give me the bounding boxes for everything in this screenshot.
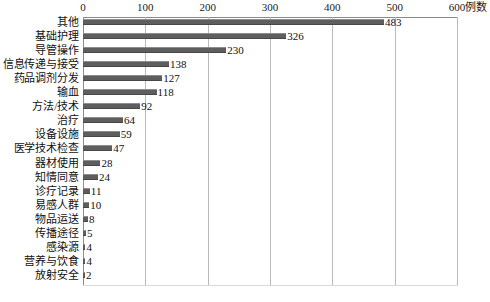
bar — [83, 160, 100, 166]
bar-value-label: 92 — [141, 99, 152, 113]
bar-value-label: 138 — [170, 57, 187, 71]
category-label: 器材使用 — [0, 156, 79, 170]
category-label: 医学技术检查 — [0, 141, 79, 155]
bar-value-label: 5 — [87, 226, 93, 240]
bar — [83, 188, 90, 194]
x-tick-label-500: 500 — [386, 1, 403, 14]
bar-value-label: 230 — [227, 43, 244, 57]
x-tick-label-600: 600 — [449, 1, 466, 14]
category-label: 导管操作 — [0, 43, 79, 57]
bar-row: 感染源4 — [0, 240, 490, 254]
category-label: 传播途径 — [0, 226, 79, 240]
bar — [83, 272, 85, 278]
category-label: 方法/技术 — [0, 99, 79, 113]
bar — [83, 216, 88, 222]
bar — [83, 174, 98, 180]
bar-value-label: 24 — [99, 170, 110, 184]
bar-row: 基础护理326 — [0, 29, 490, 43]
bar-value-label: 11 — [91, 184, 102, 198]
category-label: 物品运送 — [0, 212, 79, 226]
x-tick-label-100: 100 — [137, 1, 154, 14]
bar — [83, 47, 226, 53]
category-label: 知情同意 — [0, 170, 79, 184]
bar — [83, 89, 157, 95]
bar-row: 设备设施59 — [0, 127, 490, 141]
bar-value-label: 28 — [101, 156, 112, 170]
bar-value-label: 64 — [124, 113, 135, 127]
bar-value-label: 4 — [86, 240, 92, 254]
bar-row: 输血118 — [0, 85, 490, 99]
bar — [83, 117, 123, 123]
category-label: 其他 — [0, 15, 79, 29]
x-tick-label-200: 200 — [199, 1, 216, 14]
bar — [83, 103, 140, 109]
bar-row: 放射安全2 — [0, 268, 490, 282]
bar-value-label: 127 — [163, 71, 180, 85]
category-label: 感染源 — [0, 240, 79, 254]
bar — [83, 258, 85, 264]
bar-row: 物品运送8 — [0, 212, 490, 226]
bar — [83, 202, 89, 208]
category-label: 药品调剂分发 — [0, 71, 79, 85]
bar-value-label: 2 — [86, 268, 92, 282]
bar-row: 营养与饮食4 — [0, 254, 490, 268]
bar-row: 易感人群10 — [0, 198, 490, 212]
bar-value-label: 483 — [385, 15, 402, 29]
bar-row: 器材使用28 — [0, 156, 490, 170]
bar-value-label: 8 — [89, 212, 95, 226]
category-label: 诊疗记录 — [0, 184, 79, 198]
x-axis-label: 例数 — [465, 1, 487, 14]
category-label: 放射安全 — [0, 268, 79, 282]
bar-row: 药品调剂分发127 — [0, 71, 490, 85]
bar-row: 医学技术检查47 — [0, 141, 490, 155]
category-label: 输血 — [0, 85, 79, 99]
bar — [83, 244, 85, 250]
bar-value-label: 59 — [121, 127, 132, 141]
bar-row: 方法/技术92 — [0, 99, 490, 113]
bar — [83, 75, 162, 81]
bar-row: 传播途径5 — [0, 226, 490, 240]
bar — [83, 19, 384, 25]
bottom-axis-line — [83, 285, 458, 286]
x-tick-label-0: 0 — [80, 1, 86, 14]
bar-value-label: 10 — [90, 198, 101, 212]
category-label: 设备设施 — [0, 127, 79, 141]
bar — [83, 61, 169, 67]
bar-value-label: 47 — [113, 141, 124, 155]
x-tick-label-400: 400 — [324, 1, 341, 14]
bar-row: 知情同意24 — [0, 170, 490, 184]
category-label: 治疗 — [0, 113, 79, 127]
category-label: 基础护理 — [0, 29, 79, 43]
bar — [83, 33, 286, 39]
bar-value-label: 4 — [86, 254, 92, 268]
bar — [83, 145, 112, 151]
bar — [83, 131, 120, 137]
bar-value-label: 326 — [287, 29, 304, 43]
bar-row: 其他483 — [0, 15, 490, 29]
category-label: 易感人群 — [0, 198, 79, 212]
bar-value-label: 118 — [158, 85, 174, 99]
bar-row: 诊疗记录11 — [0, 184, 490, 198]
bar-row: 信息传递与接受138 — [0, 57, 490, 71]
category-label: 信息传递与接受 — [0, 57, 79, 71]
x-tick-label-300: 300 — [262, 1, 279, 14]
bar-row: 治疗64 — [0, 113, 490, 127]
bar-row: 导管操作230 — [0, 43, 490, 57]
category-label: 营养与饮食 — [0, 254, 79, 268]
bar — [83, 230, 86, 236]
bar-chart: 0100200300400500600 例数 其他483基础护理326导管操作2… — [0, 0, 490, 302]
